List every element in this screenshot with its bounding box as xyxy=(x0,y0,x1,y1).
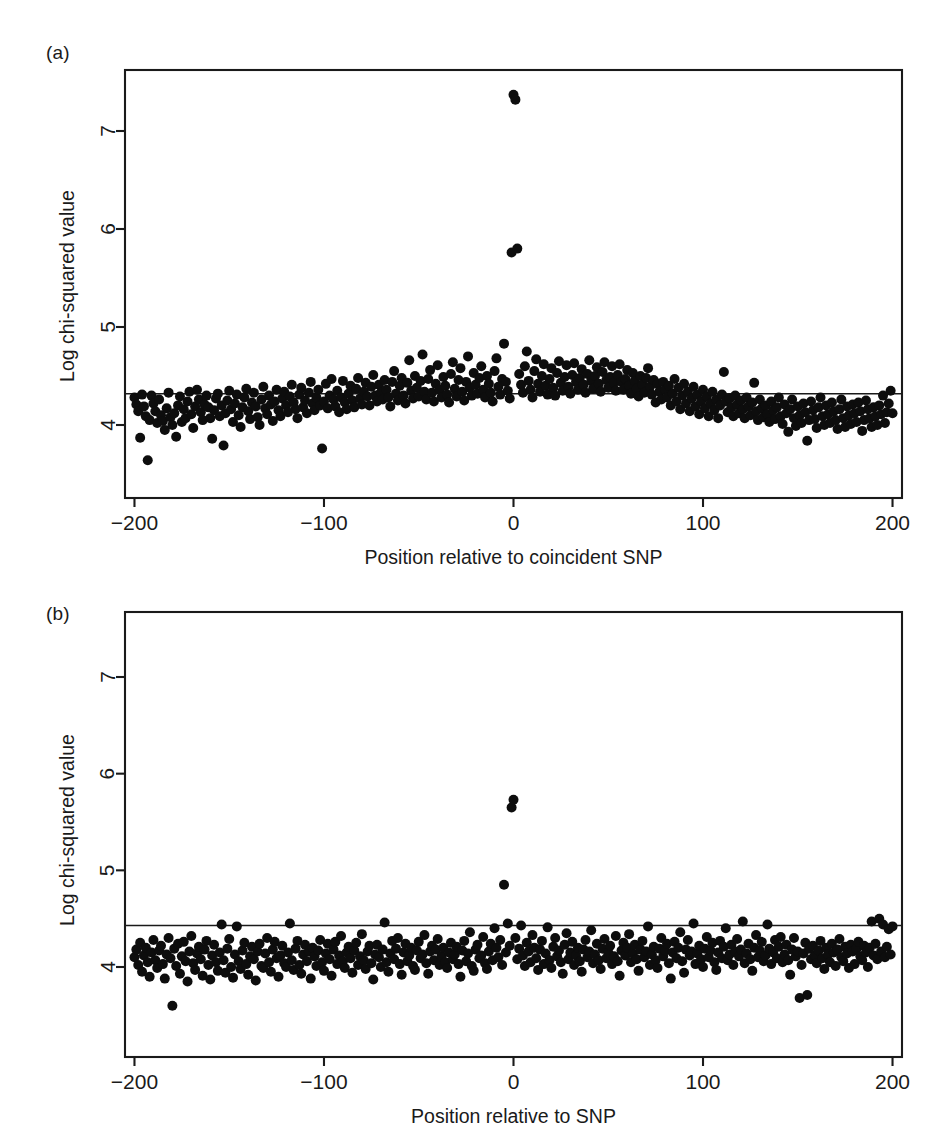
x-tick-label: 0 xyxy=(508,1070,520,1093)
x-tick-label: −100 xyxy=(300,511,347,534)
y-tick-label: 6 xyxy=(96,223,119,235)
scatter-points xyxy=(129,795,897,1011)
x-tick-label: −100 xyxy=(300,1070,347,1093)
x-tick-label: 0 xyxy=(508,511,520,534)
x-tick-label: 200 xyxy=(875,1070,910,1093)
panel-b: (b) 4567Log chi-squared value−200−100010… xyxy=(0,573,947,1146)
scatter-figure: (a) 4567Log chi-squared value−200−100010… xyxy=(0,0,947,1146)
x-tick-label: 100 xyxy=(685,511,720,534)
x-tick-label: −200 xyxy=(111,1070,158,1093)
panel-a-plot: 4567Log chi-squared value−200−1000100200… xyxy=(0,0,947,573)
y-tick-label: 6 xyxy=(96,768,119,780)
y-tick-label: 5 xyxy=(96,321,119,333)
x-tick-label: 100 xyxy=(685,1070,720,1093)
panel-a: (a) 4567Log chi-squared value−200−100010… xyxy=(0,0,947,573)
x-tick-label: 200 xyxy=(875,511,910,534)
y-tick-label: 4 xyxy=(96,961,119,973)
y-axis-title: Log chi-squared value xyxy=(56,734,78,926)
y-tick-label: 5 xyxy=(96,864,119,876)
x-tick-label: −200 xyxy=(111,511,158,534)
y-tick-label: 4 xyxy=(96,419,119,431)
panel-b-plot: 4567Log chi-squared value−200−1000100200… xyxy=(0,573,947,1146)
x-axis-title: Position relative to coincident SNP xyxy=(364,546,662,568)
y-tick-label: 7 xyxy=(96,125,119,137)
y-axis-title: Log chi-squared value xyxy=(56,190,78,382)
y-tick-label: 7 xyxy=(96,671,119,683)
x-axis-title: Position relative to SNP xyxy=(411,1105,616,1127)
scatter-points xyxy=(129,90,897,466)
